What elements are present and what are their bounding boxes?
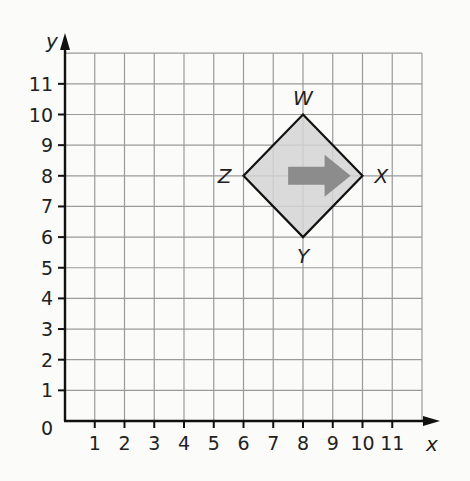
- x-tick-label: 1: [89, 432, 101, 454]
- y-tick-label: 11: [29, 73, 53, 95]
- y-axis-label: y: [45, 29, 59, 53]
- vertex-label-y: Y: [297, 244, 311, 268]
- coordinate-plane: WXYZ 123456789101112345678910110xy: [0, 0, 470, 481]
- origin-label: 0: [41, 417, 53, 439]
- grid-lines: [65, 53, 422, 421]
- y-tick-label: 8: [41, 165, 53, 187]
- x-tick-label: 2: [118, 432, 130, 454]
- x-tick-label: 8: [297, 432, 309, 454]
- x-tick-label: 4: [178, 432, 190, 454]
- y-tick-label: 7: [41, 195, 53, 217]
- y-tick-label: 10: [29, 104, 53, 126]
- y-tick-label: 4: [41, 287, 53, 309]
- y-tick-label: 6: [41, 226, 53, 248]
- x-tick-label: 11: [380, 432, 404, 454]
- x-tick-label: 10: [350, 432, 374, 454]
- y-tick-label: 9: [41, 134, 53, 156]
- vertex-label-z: Z: [217, 164, 233, 188]
- x-tick-label: 5: [208, 432, 220, 454]
- y-axis-arrow-icon: [60, 33, 70, 50]
- vertex-label-w: W: [293, 86, 314, 110]
- y-tick-label: 2: [41, 349, 53, 371]
- y-tick-label: 5: [41, 257, 53, 279]
- x-tick-label: 6: [237, 432, 249, 454]
- x-axis-label: x: [425, 432, 438, 456]
- y-tick-label: 3: [41, 318, 53, 340]
- vertex-label-x: X: [374, 164, 390, 188]
- x-axis-arrow-icon: [423, 416, 440, 426]
- y-tick-label: 1: [41, 379, 53, 401]
- axes: [58, 33, 440, 428]
- tick-labels: 123456789101112345678910110xy: [29, 29, 438, 456]
- x-tick-label: 7: [267, 432, 279, 454]
- x-tick-label: 3: [148, 432, 160, 454]
- x-tick-label: 9: [327, 432, 339, 454]
